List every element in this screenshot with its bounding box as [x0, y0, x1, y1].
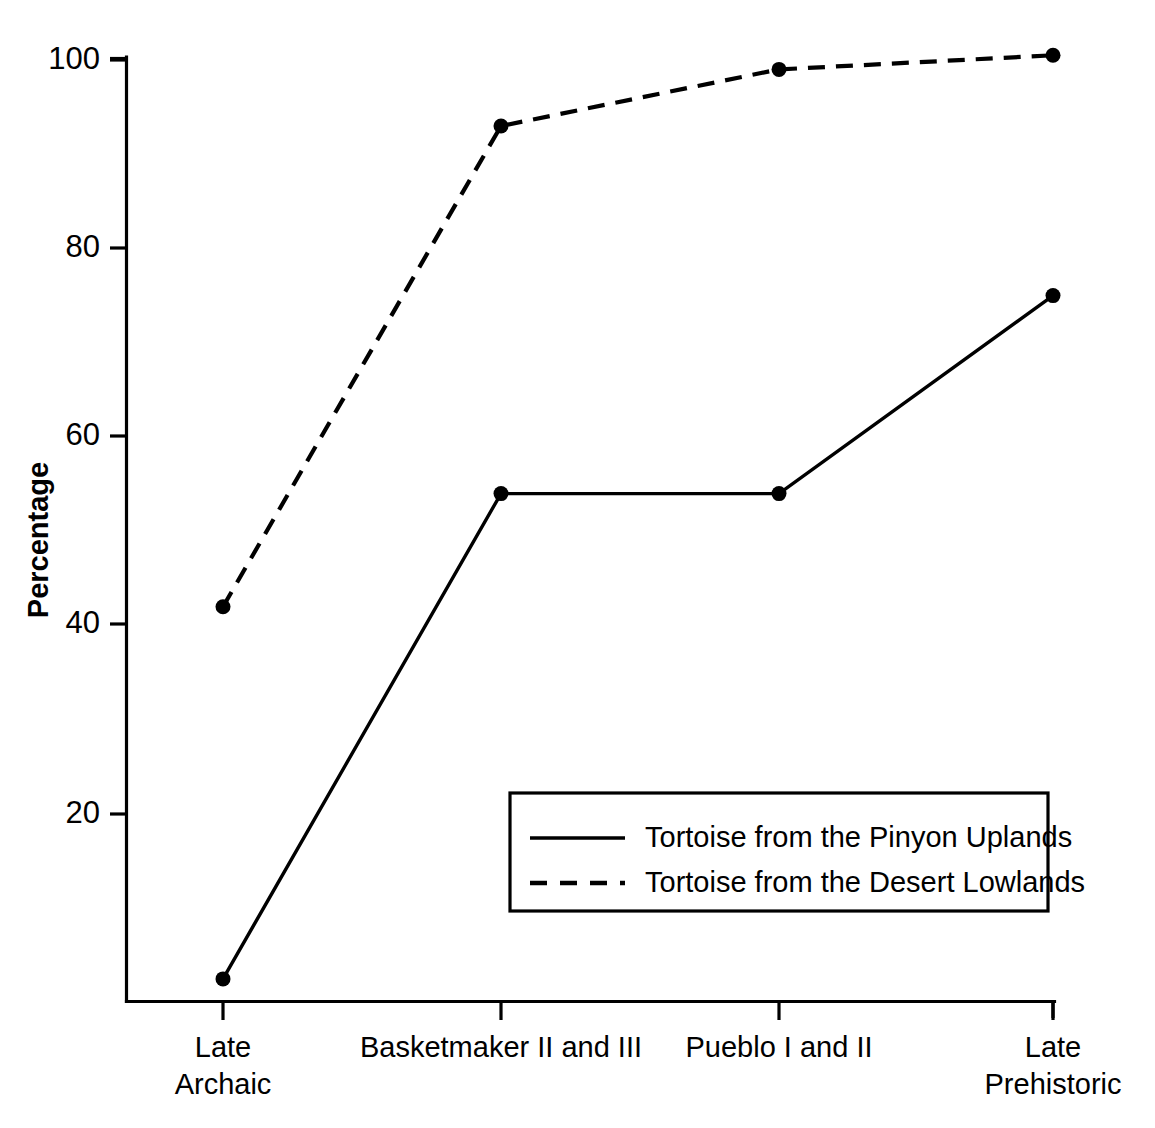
y-tick-80: 80 — [66, 229, 127, 264]
data-point-marker — [772, 62, 787, 77]
x-tick-label-line2: Prehistoric — [985, 1068, 1122, 1100]
data-point-marker — [216, 971, 231, 986]
y-tick-label: 100 — [48, 41, 100, 76]
data-point-marker — [494, 486, 509, 501]
x-axis-ticks: Late Archaic Basketmaker II and III Pueb… — [175, 1001, 1122, 1100]
x-tick-label-line1: Late — [1025, 1031, 1081, 1063]
chart-page: 100 80 60 40 20 Percentage — [0, 0, 1155, 1128]
y-tick-20: 20 — [66, 795, 127, 830]
x-tick-3: Late Prehistoric — [985, 1001, 1122, 1100]
data-point-marker — [772, 486, 787, 501]
y-axis-ticks: 100 80 60 40 20 — [48, 41, 127, 830]
x-tick-0: Late Archaic — [175, 1001, 272, 1100]
y-tick-label: 20 — [66, 795, 100, 830]
data-point-marker — [1046, 288, 1061, 303]
y-tick-60: 60 — [66, 417, 127, 452]
data-point-marker — [1046, 48, 1061, 63]
series-line — [223, 55, 1053, 606]
y-axis-title: Percentage — [22, 462, 54, 618]
legend-label: Tortoise from the Desert Lowlands — [645, 866, 1085, 898]
legend-label: Tortoise from the Pinyon Uplands — [645, 821, 1072, 853]
y-tick-label: 60 — [66, 417, 100, 452]
chart-legend[interactable]: Tortoise from the Pinyon Uplands Tortois… — [510, 793, 1085, 911]
x-tick-label-line2: Archaic — [175, 1068, 272, 1100]
y-tick-label: 80 — [66, 229, 100, 264]
line-chart: 100 80 60 40 20 Percentage — [0, 0, 1155, 1128]
y-tick-40: 40 — [66, 605, 127, 640]
y-tick-label: 40 — [66, 605, 100, 640]
data-point-marker — [494, 119, 509, 134]
x-tick-2: Pueblo I and II — [685, 1001, 872, 1063]
y-tick-100: 100 — [48, 41, 127, 76]
series-dashed — [216, 48, 1061, 614]
x-tick-label-line1: Late — [195, 1031, 251, 1063]
data-point-marker — [216, 599, 231, 614]
x-tick-label-line1: Basketmaker II and III — [360, 1031, 642, 1063]
x-tick-label-line1: Pueblo I and II — [685, 1031, 872, 1063]
x-tick-1: Basketmaker II and III — [360, 1001, 642, 1063]
